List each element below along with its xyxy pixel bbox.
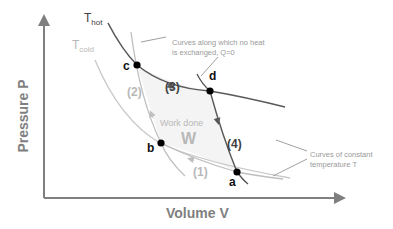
t-cold-label: Tcold <box>72 38 94 54</box>
step-1-label: (1) <box>193 165 208 179</box>
adiabat-note-pointer <box>141 37 166 42</box>
point-b <box>157 139 164 146</box>
pv-diagram-canvas <box>0 0 393 229</box>
point-d <box>206 87 213 94</box>
isotherm-note: Curves of constant temperature T <box>310 150 373 170</box>
step1-arrow-icon <box>190 159 194 160</box>
point-a-label: a <box>229 175 236 189</box>
point-d-label: d <box>209 69 216 83</box>
y-axis-label: Pressure P <box>15 71 31 161</box>
work-symbol: W <box>181 130 196 148</box>
point-b-label: b <box>147 141 154 155</box>
isotherm-note-pointer-1 <box>276 140 307 151</box>
adiabat-note: Curves along which no heat is exchanged,… <box>172 38 265 58</box>
point-c <box>133 61 140 68</box>
point-c-label: c <box>123 59 130 73</box>
x-axis-label: Volume V <box>166 205 229 221</box>
work-done-label: Work done <box>160 118 203 128</box>
step-2-label: (2) <box>127 85 142 99</box>
t-hot-label: Thot <box>84 11 102 27</box>
step-4-label: (4) <box>227 137 242 151</box>
step-3-label: (3) <box>165 80 180 94</box>
isotherm-note-pointer-2 <box>273 159 307 176</box>
